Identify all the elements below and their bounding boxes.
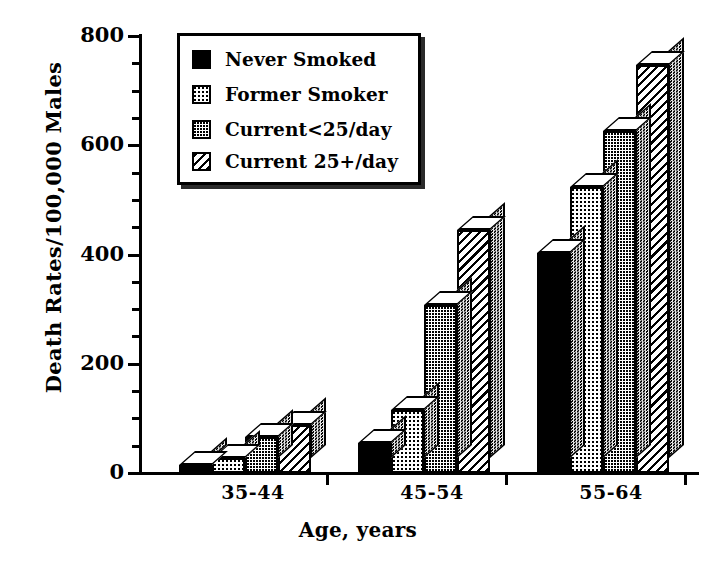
bar-front-face (179, 465, 212, 473)
x-tick-label: 55-64 (541, 481, 681, 503)
bar-side-face (635, 102, 651, 458)
legend-swatch-icon (192, 85, 211, 104)
legend-item[interactable]: Current 25+/day (192, 146, 398, 176)
x-axis-title: Age, years (0, 518, 716, 542)
bar-side-face (489, 202, 505, 459)
bar-side-face (569, 225, 585, 459)
legend-item-label: Former Smoker (225, 84, 388, 105)
legend-item[interactable]: Never Smoked (192, 44, 376, 74)
legend-item[interactable]: Former Smoker (192, 79, 388, 109)
bar-side-face (423, 382, 439, 459)
legend: Never SmokedFormer SmokerCurrent<25/dayC… (177, 33, 421, 185)
bar-side-face (310, 397, 326, 459)
bar-side-face (602, 159, 618, 459)
bar[interactable] (358, 429, 407, 473)
x-tick-major (505, 474, 508, 485)
legend-swatch-icon (192, 152, 211, 171)
bar-front-face (358, 443, 391, 473)
bar-side-face (456, 277, 472, 459)
bar-side-face (668, 37, 684, 459)
x-tick-label: 45-54 (362, 481, 502, 503)
bar-chart: Death Rates/100,000 Males 0200400600800 … (0, 0, 716, 575)
x-tick-label: 35-44 (183, 481, 323, 503)
bar-front-face (537, 253, 570, 473)
x-tick-major (326, 474, 329, 485)
bar[interactable] (537, 239, 586, 473)
legend-item[interactable]: Current<25/day (192, 114, 392, 144)
bar[interactable] (179, 451, 228, 473)
x-tick-major (684, 474, 687, 485)
legend-item-label: Current 25+/day (225, 151, 398, 172)
legend-item-label: Never Smoked (225, 49, 376, 70)
legend-swatch-icon (192, 120, 211, 139)
bar-top-face (179, 451, 228, 465)
legend-item-label: Current<25/day (225, 119, 392, 140)
legend-swatch-icon (192, 50, 211, 69)
